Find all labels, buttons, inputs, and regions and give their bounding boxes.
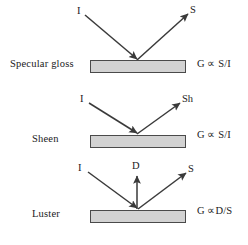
ray-label-incident-sheen: I (80, 93, 84, 104)
panel-label-luster: Luster (32, 208, 60, 219)
panel-formula-specular-gloss: G ∝ S/I (197, 57, 231, 69)
panel-luster-rays (88, 172, 186, 209)
ray-specular-specular (137, 14, 188, 60)
panel-label-specular-gloss: Specular gloss (10, 58, 74, 69)
ray-label-specular-specular-gloss: S (190, 4, 196, 15)
ray-sheen-sheen (137, 103, 180, 134)
panel-label-sheen: Sheen (32, 133, 59, 144)
panel-specular-gloss-rays (85, 14, 188, 60)
panel-formula-luster: G ∝D/S (197, 204, 232, 216)
ray-specular-luster (138, 173, 186, 209)
ray-incident-specular (85, 15, 137, 59)
ray-label-diffuse-luster: D (132, 160, 140, 171)
surface-slab-specular-gloss (90, 60, 186, 73)
gloss-types-figure: Specular gloss G ∝ S/I I S Sheen G ∝ S/I… (0, 0, 248, 245)
surface-slab-sheen (90, 135, 186, 148)
ray-incident-luster (88, 172, 137, 208)
panel-formula-sheen: G ∝ S/I (197, 128, 231, 140)
ray-label-sheen-sheen: Sh (182, 93, 193, 104)
ray-label-incident-luster: I (78, 162, 82, 173)
ray-label-specular-luster: S (188, 163, 194, 174)
surface-slab-luster (90, 210, 186, 223)
ray-label-incident-specular-gloss: I (77, 5, 81, 16)
panel-sheen-rays (89, 103, 180, 134)
ray-incident-sheen (89, 103, 137, 133)
